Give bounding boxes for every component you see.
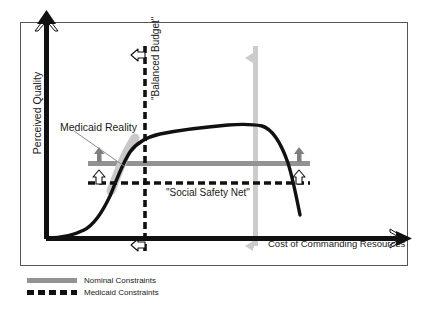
legend-item-medicaid: Medicaid Constraints: [27, 287, 287, 298]
nominal-right-up-arrow-tail: [297, 153, 302, 162]
legend-label-medicaid: Medicaid Constraints: [84, 288, 159, 297]
legend-swatch-medicaid-icon: [27, 290, 77, 295]
nominal-vertical-top-arrow-tail: [249, 56, 254, 60]
nominal-left-up-arrow-tail: [97, 153, 102, 162]
chart-legend: Nominal Constraints Medicaid Constraints: [27, 275, 287, 299]
nominal-vertical-line: [253, 46, 258, 246]
y-axis-label: Perceived Quality: [31, 71, 43, 154]
medicaid-reality-label: Medicaid Reality: [60, 121, 138, 133]
social-safety-net-label: "Social Safety Net": [166, 187, 250, 198]
y-axis-line: [44, 24, 49, 239]
y-axis-arrowhead-icon: [37, 10, 56, 24]
x-axis-label: Cost of Commanding Resources: [268, 238, 406, 249]
legend-item-nominal: Nominal Constraints: [27, 275, 287, 286]
figure-container: Perceived Quality Cost of Commanding Res…: [0, 0, 429, 309]
balanced-budget-label: "Balanced Budget": [150, 16, 161, 100]
chart-frame: [21, 23, 408, 266]
legend-label-nominal: Nominal Constraints: [84, 276, 156, 285]
legend-swatch-nominal-icon: [27, 278, 77, 283]
chart-canvas: Perceived Quality Cost of Commanding Res…: [0, 0, 429, 309]
nominal-vertical-bottom-arrow-tail: [249, 244, 254, 248]
